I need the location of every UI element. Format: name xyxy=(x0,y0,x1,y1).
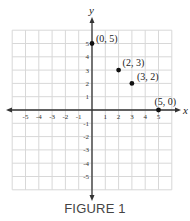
x-tick-label: -5 xyxy=(23,113,29,121)
x-tick-label: 2 xyxy=(117,113,121,121)
y-tick-label: -3 xyxy=(83,146,89,154)
y-tick-label: -2 xyxy=(83,133,89,141)
data-point-label: (0, 5) xyxy=(96,33,118,45)
data-point-label: (3, 2) xyxy=(137,71,159,83)
x-tick-label: 5 xyxy=(157,113,161,121)
coordinate-plane: x y -5-4-3-2-11234554321-1-2-3-4-5 (0, 5… xyxy=(0,0,190,221)
x-axis-label: x xyxy=(182,104,188,116)
y-tick-label: -4 xyxy=(83,160,89,168)
data-point xyxy=(116,68,121,73)
x-tick-label: -3 xyxy=(49,113,55,121)
x-axis-left-arrow-icon xyxy=(6,108,12,113)
x-tick-label: -4 xyxy=(36,113,42,121)
data-point xyxy=(156,108,161,113)
x-tick-label: -1 xyxy=(76,113,82,121)
data-point-label: (2, 3) xyxy=(123,57,145,69)
y-tick-label: 1 xyxy=(86,93,90,101)
x-tick-label: 4 xyxy=(143,113,147,121)
y-tick-label: 4 xyxy=(86,53,90,61)
data-point xyxy=(90,41,95,46)
y-tick-label: 3 xyxy=(86,67,90,75)
y-axis-up-arrow-icon xyxy=(90,17,95,23)
data-point xyxy=(130,81,135,86)
y-tick-label: 5 xyxy=(86,40,90,48)
x-tick-label: -2 xyxy=(62,113,68,121)
figure-caption: FIGURE 1 xyxy=(0,201,190,216)
data-point-label: (5, 0) xyxy=(155,96,177,108)
y-tick-label: 2 xyxy=(86,80,90,88)
x-tick-label: 3 xyxy=(130,113,134,121)
y-tick-label: -1 xyxy=(83,120,89,128)
y-tick-label: -5 xyxy=(83,173,89,181)
y-axis-label: y xyxy=(88,4,94,16)
x-axis-right-arrow-icon xyxy=(175,108,181,113)
x-tick-label: 1 xyxy=(104,113,108,121)
data-points: (0, 5)(2, 3)(3, 2)(5, 0) xyxy=(90,33,177,113)
